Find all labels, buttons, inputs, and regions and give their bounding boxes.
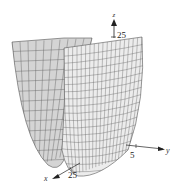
y-axis: 5 y [126, 144, 170, 160]
z-axis-label: z [112, 11, 116, 19]
y-axis-arrow-icon [158, 147, 165, 152]
z-axis: z 25 [111, 11, 127, 40]
x-tick-label: 25 [68, 170, 78, 180]
surface-front-sheet [55, 37, 150, 179]
x-axis-arrow-icon [52, 174, 60, 179]
x-axis-label: x [43, 174, 48, 183]
z-axis-arrow-icon [111, 19, 117, 26]
y-axis-label: y [165, 146, 170, 155]
z-tick-label: 25 [117, 30, 127, 40]
y-tick-label: 5 [130, 150, 135, 160]
x-axis: 25 x [43, 163, 80, 183]
surface-plot: z 25 5 y 25 x [0, 0, 179, 186]
